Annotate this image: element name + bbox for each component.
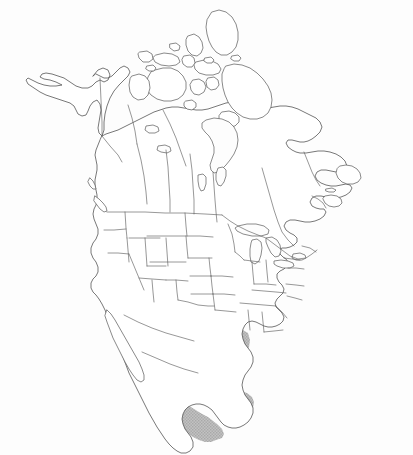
bathurst-island-outline [182,55,195,67]
north-america-range-map [0,0,413,455]
border-fl-ga [264,330,283,332]
prince-of-wales-island-outline [190,79,206,95]
melville-island-outline [153,53,180,66]
border-va-nc [286,284,304,286]
arctic-islet-b-outline [204,57,214,63]
border-nc-sc [287,296,302,300]
axel-heiberg-island-outline [186,34,203,56]
ellesmere-island-outline [206,10,238,55]
arctic-islet-c-outline [146,65,156,71]
border-ne-states [302,246,316,252]
map-svg-canvas [0,0,413,455]
landmass-outline-layer [26,10,361,453]
arctic-islet-d-outline [231,55,241,61]
somerset-island-outline [206,77,219,90]
prince-patrick-island-outline [138,51,153,62]
great-bear-lake-outline [145,125,159,133]
newfoundland-outline [336,165,361,184]
victoria-island-outline [146,68,186,101]
banks-island-outline [129,74,150,100]
border-pa-md [288,268,304,269]
arctic-islet-a-outline [170,43,180,51]
alaska-outline [26,66,130,136]
